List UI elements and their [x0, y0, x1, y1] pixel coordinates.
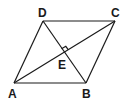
vertex-label-d: D	[38, 6, 47, 20]
diagonal-bd	[43, 21, 86, 83]
intersection-label-e: E	[58, 58, 66, 72]
vertex-label-a: A	[8, 87, 17, 101]
vertex-label-b: B	[82, 87, 91, 101]
rhombus-diagram: D C A B E	[0, 0, 124, 104]
vertex-label-c: C	[111, 6, 120, 20]
